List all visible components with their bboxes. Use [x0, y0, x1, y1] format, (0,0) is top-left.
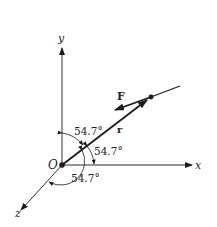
- angle-label-x: 54.7°: [94, 146, 123, 157]
- x-axis-label: x: [195, 160, 201, 171]
- origin-label: O: [48, 159, 58, 171]
- line-of-action: [151, 86, 180, 97]
- vector-diagram: y x z O F r 54.7° 54.7° 54.7°: [0, 0, 217, 227]
- angle-label-z: 54.7°: [71, 173, 100, 184]
- origin-point: [59, 162, 65, 168]
- y-axis-label: y: [58, 33, 64, 44]
- angle-label-y: 54.7°: [74, 126, 103, 137]
- angle-arc-x: [87, 146, 94, 164]
- diagram-graphics: [0, 0, 217, 227]
- position-label: r: [117, 125, 122, 135]
- force-label: F: [117, 91, 125, 102]
- application-point: [149, 95, 154, 100]
- z-axis-label: z: [15, 208, 21, 219]
